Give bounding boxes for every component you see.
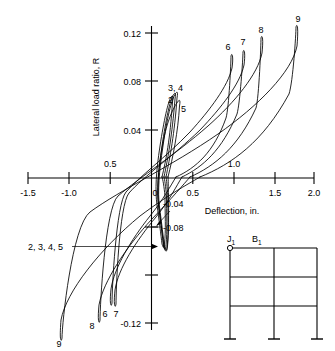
y-tick-label-012: 0.12 [123,29,141,39]
cycle-marker-7-bottom: 7 [113,309,118,319]
annotation-cycles-2345: 2, 3, 4, 5 [28,242,158,252]
structural-frame-diagram: J1 B1 [224,234,323,339]
annotation-cycles-2345-label: 2, 3, 4, 5 [28,242,63,252]
frame-beam-label: B1 [252,234,262,246]
x-tick-label-15: 1.5 [269,188,282,198]
x-axis-title: Deflection, in. [205,206,260,216]
axes-group [28,26,314,330]
cycle-marker-6-top: 6 [225,42,230,52]
joint-marker-icon [227,245,232,250]
annotation-neg004-label: -0.04 [163,199,184,209]
cycle-marker-5: 5 [181,104,186,114]
y-tick-label-neg012: -0.12 [120,319,141,329]
x-above-label-10: 1.0 [228,159,241,169]
y-axis-title: Lateral load ratio, R [91,57,101,136]
x-above-label-neg05: 0.5 [104,159,117,169]
cycle-marker-9-top: 9 [295,14,300,24]
x-tick-label-0: 0 [152,188,157,198]
chart-svg: 0.12 0.08 0.04 -0.08 -0.12 -1.5 -1.0 0 0… [0,0,335,351]
x-tick-label-05: 0.5 [187,188,200,198]
x-tick-label-neg10: -1.0 [61,188,77,198]
y-tick-label-008: 0.08 [123,77,141,87]
hysteresis-figure: 0.12 0.08 0.04 -0.08 -0.12 -1.5 -1.0 0 0… [0,0,335,351]
y-tick-label-neg008: -0.08 [163,223,184,233]
cycle-marker-7-top: 7 [240,37,245,47]
cycle-marker-8-bottom: 8 [89,321,94,331]
frame-joint-label: J1 [227,234,236,246]
x-tick-label-neg15: -1.5 [20,188,36,198]
x-tick-label-20: 2.0 [308,188,321,198]
cycle-marker-8-top: 8 [258,25,263,35]
cycle-marker-6-bottom: 6 [102,309,107,319]
cycle-marker-9-bottom: 9 [56,339,61,349]
y-tick-label-004: 0.04 [123,126,141,136]
cycle-marker-3-4: 3, 4 [168,83,183,93]
cycle-marker-2: 2 [168,95,173,105]
